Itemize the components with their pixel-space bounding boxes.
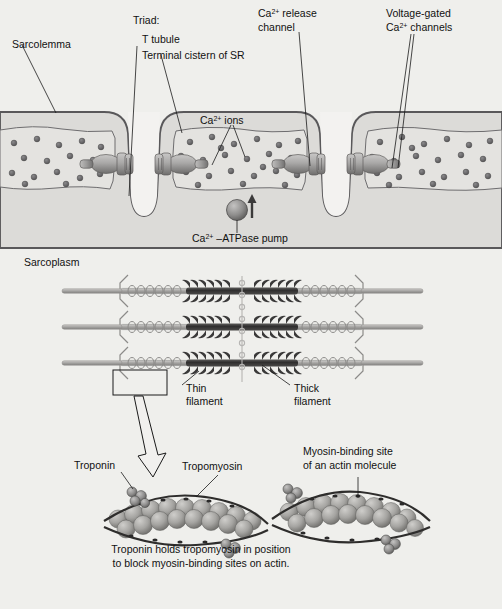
- muscle-excitation-contraction-figure: Sarcolemma Triad: T tubule Terminal cist…: [0, 0, 502, 609]
- label-calcium-ions: Ca2+ ions: [200, 114, 244, 126]
- label-triad-header: Triad:: [133, 14, 159, 26]
- label-thin-filament-line2: filament: [186, 395, 223, 407]
- label-myosin-binding-site-line2: of an actin molecule: [303, 459, 397, 471]
- label-release-channel: Ca2+ release: [258, 7, 317, 19]
- caption-line1: Troponin holds tropomyosin in position: [111, 543, 291, 555]
- label-myosin-binding-site-line1: Myosin-binding site: [303, 445, 393, 457]
- label-thick-filament-line2: filament: [294, 395, 331, 407]
- caption-line2: to block myosin-binding sites on actin.: [113, 557, 290, 569]
- label-tropomyosin: Tropomyosin: [182, 460, 242, 472]
- label-voltage-gated-line1: Voltage-gated: [386, 7, 451, 19]
- label-thin-filament-line1: Thin: [186, 382, 207, 394]
- label-voltage-gated-line2: Ca2+ channels: [386, 21, 452, 33]
- label-sarcolemma: Sarcolemma: [12, 38, 71, 50]
- label-sarcoplasm: Sarcoplasm: [24, 256, 80, 268]
- label-terminal-cistern: Terminal cistern of SR: [142, 49, 245, 61]
- label-t-tubule: T tubule: [142, 33, 180, 45]
- label-release-channel-line2: channel: [258, 21, 295, 33]
- sarcolemma-panel: [0, 112, 502, 248]
- label-thick-filament-line1: Thick: [294, 382, 320, 394]
- label-troponin: Troponin: [74, 459, 115, 471]
